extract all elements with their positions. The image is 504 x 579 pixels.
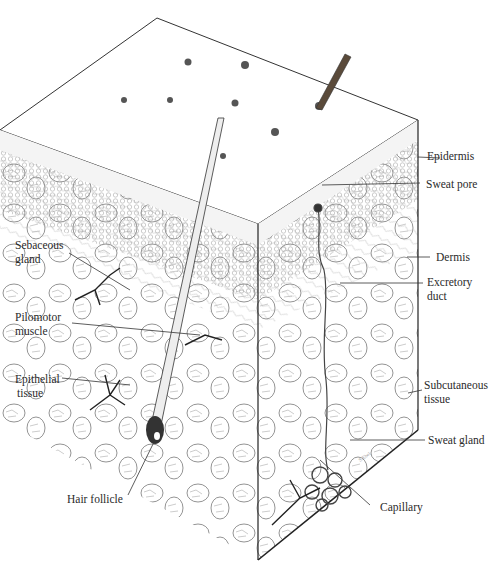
label-excretory-duct-2: duct (427, 290, 447, 303)
label-pilomotor-1: Pilomotor (15, 311, 61, 324)
label-subcutaneous-2: tissue (424, 393, 450, 406)
label-pilomotor-2: muscle (15, 325, 48, 338)
label-excretory-duct-1: Excretory (427, 276, 472, 289)
label-subcutaneous-1: Subcutaneous (424, 379, 488, 392)
label-sebaceous-2: gland (15, 253, 41, 266)
label-sweat-pore: Sweat pore (426, 178, 477, 191)
label-epidermis: Epidermis (427, 150, 474, 163)
label-capillary: Capillary (380, 501, 423, 514)
label-sebaceous-1: Sebaceous (15, 239, 64, 252)
label-sweat-gland: Sweat gland (428, 434, 485, 447)
label-epithelial-2: tissue (17, 387, 43, 400)
label-epithelial-1: Epithelial (15, 373, 60, 386)
label-hair-follicle: Hair follicle (67, 493, 123, 506)
label-dermis: Dermis (436, 251, 470, 264)
